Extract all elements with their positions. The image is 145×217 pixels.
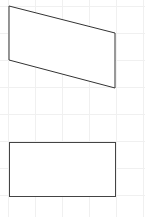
parallelogram-shape[interactable] — [9, 6, 115, 88]
diagram-canvas — [0, 0, 145, 217]
shapes-layer — [0, 0, 145, 217]
rectangle-shape[interactable] — [10, 143, 116, 197]
